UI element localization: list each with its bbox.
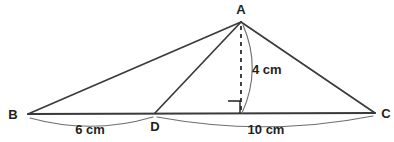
geometry-diagram: B A C D 4 cm 6 cm 10 cm [0,0,394,142]
segment-bc-base [28,113,375,114]
segment-ba [28,22,241,114]
vertex-label-b: B [8,107,17,122]
geometry-canvas: B A C D 4 cm 6 cm 10 cm [0,0,394,142]
vertex-label-d: D [150,119,159,134]
segment-ad-cevian [155,22,241,113]
vertex-label-c: C [381,106,391,121]
left-base-measure-label: 6 cm [75,122,105,137]
right-angle-icon [228,101,240,113]
height-measure-label: 4 cm [252,62,282,77]
height-measure-arc [242,25,252,113]
vertex-label-a: A [236,2,246,17]
right-base-measure-label: 10 cm [248,122,285,137]
